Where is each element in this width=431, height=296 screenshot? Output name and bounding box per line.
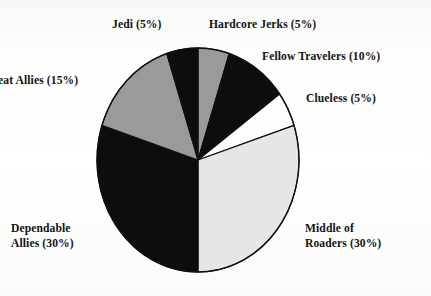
slice-label-jedi: Jedi (5%): [112, 18, 162, 33]
slice-label-dependable-allies-line2: Allies (30%): [11, 237, 131, 252]
chart-area: Jedi (5%) Hardcore Jerks (5%) Fellow Tra…: [0, 0, 431, 296]
slice-label-clueless: Clueless (5%): [306, 92, 376, 107]
slice-label-fellow-travelers: Fellow Travelers (10%): [262, 50, 380, 65]
slice-label-middle-of-roaders: Middle of Roaders (30%): [305, 222, 425, 251]
slice-label-great-allies: reat Allies (15%): [0, 74, 78, 89]
slice-label-middle-of-roaders-line2: Roaders (30%): [305, 237, 425, 252]
slice-label-dependable-allies-line1: Dependable: [11, 222, 131, 237]
slice-label-hardcore-jerks: Hardcore Jerks (5%): [209, 18, 316, 33]
slice-label-middle-of-roaders-line1: Middle of: [305, 222, 425, 237]
pie-chart-svg: [0, 0, 431, 296]
pie-chart-figure: Jedi (5%) Hardcore Jerks (5%) Fellow Tra…: [0, 0, 431, 296]
slice-label-dependable-allies: Dependable Allies (30%): [11, 222, 131, 251]
